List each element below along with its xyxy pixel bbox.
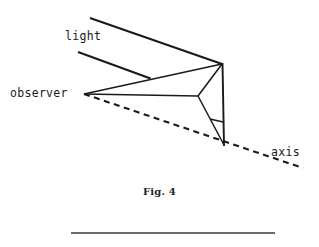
edge-junction-to-bottom [198, 96, 224, 145]
figure-caption: Fig. 4 [0, 186, 319, 197]
vertical-axis-edge [223, 63, 225, 146]
sight-line-to-junction [84, 94, 198, 96]
figure-4-diagram: light observer axis Fig. 4 [0, 0, 319, 247]
diagram-canvas [0, 0, 319, 247]
label-axis: axis [271, 146, 300, 158]
light-ray-upper [90, 18, 222, 64]
light-ray-lower [78, 52, 151, 79]
label-light: light [65, 30, 101, 42]
label-observer: observer [10, 87, 68, 99]
sight-line-to-apex [84, 64, 222, 94]
